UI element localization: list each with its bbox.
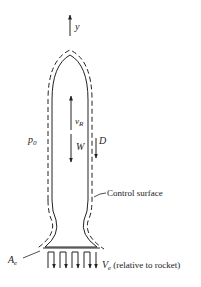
control-surface-label: Control surface — [107, 188, 163, 198]
weight-label: W — [76, 141, 86, 152]
rocket-control-volume-diagram: y vR W D p0 Control surface Ae Ve(relati… — [0, 0, 201, 287]
drag-label: D — [98, 135, 107, 146]
y-axis-label: y — [74, 21, 80, 32]
exhaust-flow-arrows — [48, 252, 96, 268]
ambient-pressure-label: p0 — [27, 134, 37, 147]
velocity-label: vR — [75, 116, 84, 128]
control-surface-leader — [94, 193, 106, 197]
exit-area-label: Ae — [7, 254, 17, 267]
exit-area-leader — [23, 251, 40, 258]
exit-velocity-label: Ve(relative to rocket) — [102, 259, 180, 272]
